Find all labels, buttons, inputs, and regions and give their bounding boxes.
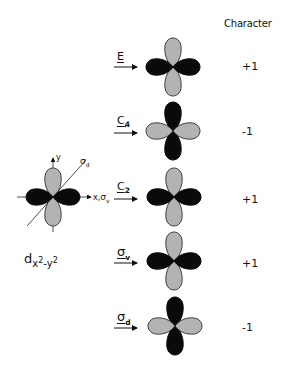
orbital-C4 [146,102,200,160]
op-subscript: 4 [125,120,130,129]
op-symbol: C [117,114,125,127]
op-subscript: v [125,253,130,262]
operation-label-sigma-v: σv [117,244,130,262]
character-header: Character [224,18,272,29]
y-axis-label: y [56,153,61,162]
op-symbol: σ [117,244,125,259]
operation-arrows [114,67,137,328]
sigma-d-axis-label: σd [80,156,90,168]
orbital-sigma-v [147,232,201,290]
op-symbol: C [117,180,125,193]
orbital-sigma-d [148,297,202,355]
character-value-E: +1 [242,60,258,73]
sigma-v-subscript: v [106,197,110,204]
reference-orbital [17,158,91,232]
sigma-d-subscript: d [86,161,90,168]
operation-label-E: E [117,50,124,65]
orbital-E [146,38,200,96]
character-value-C2: +1 [242,193,258,206]
op-subscript: 2 [125,186,130,195]
op-symbol: σ [117,309,125,324]
orbital-sup-2: 2 [53,255,58,264]
operation-label-C4: C4 [117,114,130,129]
orbital-name-label: dx2-y2 [24,251,58,269]
x-axis-label: x,σv [93,192,110,204]
character-value-C4: -1 [242,125,253,138]
diagram-canvas [0,0,283,366]
op-subscript: d [125,318,130,327]
operation-label-sigma-d: σd [117,309,131,327]
orbital-sub-y: -y [43,258,52,269]
operation-label-C2: C2 [117,180,130,195]
character-value-sigma-v: +1 [242,257,258,270]
orbital-C2 [147,168,201,226]
op-symbol: E [117,50,124,63]
character-value-sigma-d: -1 [242,321,253,334]
